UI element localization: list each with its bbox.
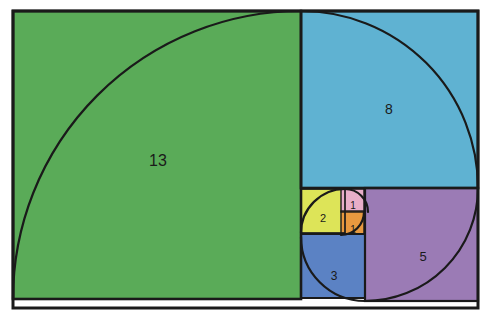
label-square-3: 3 (331, 269, 338, 283)
square-8 (301, 11, 478, 188)
label-square-1-lower: 1 (350, 224, 356, 235)
square-3 (301, 234, 365, 298)
label-square-5: 5 (419, 249, 426, 264)
squares-group (13, 11, 478, 301)
fibonacci-spiral-diagram: 13 8 5 3 2 1 1 (0, 0, 491, 325)
label-square-1-upper: 1 (350, 200, 356, 211)
label-square-8: 8 (385, 101, 393, 117)
label-square-2: 2 (320, 212, 326, 224)
square-5 (365, 188, 478, 301)
label-square-13: 13 (149, 152, 167, 169)
